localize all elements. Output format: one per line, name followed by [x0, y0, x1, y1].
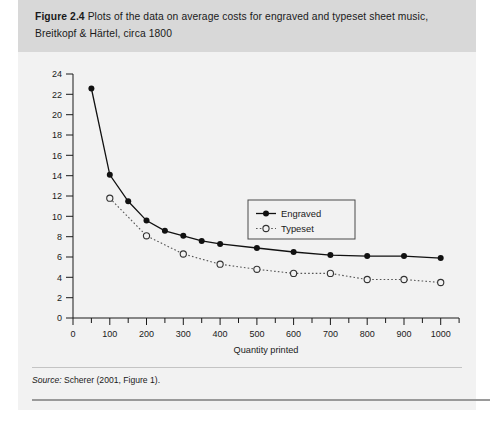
source-divider: [32, 367, 462, 368]
source-note: Source: Scherer (2001, Figure 1).: [32, 375, 160, 385]
figure-number: Figure 2.4: [35, 11, 85, 22]
x-tick-label: 300: [176, 329, 191, 339]
chart-plot-region: 0 2 4 6 8 10 12 14 16 18 20: [18, 52, 476, 358]
y-tick-label: 8: [57, 232, 62, 242]
x-tick-label: 500: [249, 329, 264, 339]
y-tick-label: 2: [57, 293, 62, 303]
x-tick-label: 400: [213, 329, 228, 339]
x-tick-label: 800: [360, 329, 375, 339]
x-axis-title: Quantity printed: [234, 345, 299, 355]
figure-caption: Plots of the data on average costs for e…: [35, 11, 428, 39]
x-tick-label: 700: [323, 329, 338, 339]
y-axis-ticks: 0 2 4 6 8 10 12 14 16 18 20: [52, 69, 73, 323]
x-tick-label: 200: [139, 329, 154, 339]
x-axis-ticks: 0 100 200 300 400 500 600 700 800 900: [70, 318, 450, 339]
line-chart: 0 2 4 6 8 10 12 14 16 18 20: [18, 52, 476, 358]
legend-label-typeset: Typeset: [281, 223, 314, 234]
y-tick-label: 6: [57, 252, 62, 262]
y-tick-label: 12: [52, 191, 62, 201]
x-tick-label: 0: [70, 329, 75, 339]
chart-legend: Engraved Typeset: [248, 200, 355, 239]
y-tick-label: 0: [57, 313, 62, 323]
y-tick-label: 4: [57, 273, 62, 283]
x-tick-label: 600: [286, 329, 301, 339]
x-tick-label: 100: [102, 329, 117, 339]
x-tick-label: 900: [396, 329, 411, 339]
figure-panel: Figure 2.4 Plots of the data on average …: [18, 0, 476, 410]
figure-title: Figure 2.4 Plots of the data on average …: [35, 9, 460, 42]
figure-bottom-rule: [32, 399, 490, 401]
y-tick-label: 14: [52, 171, 62, 181]
y-tick-label: 18: [52, 130, 62, 140]
x-tick-label: 1000: [431, 329, 451, 339]
source-label: Source:: [32, 375, 62, 385]
y-tick-label: 22: [52, 90, 62, 100]
figure-title-band: Figure 2.4 Plots of the data on average …: [18, 0, 476, 52]
source-citation: Scherer (2001, Figure 1).: [64, 375, 160, 385]
y-tick-label: 24: [52, 69, 62, 79]
y-tick-label: 10: [52, 212, 62, 222]
legend-label-engraved: Engraved: [281, 208, 321, 219]
y-tick-label: 16: [52, 151, 62, 161]
y-tick-label: 20: [52, 110, 62, 120]
